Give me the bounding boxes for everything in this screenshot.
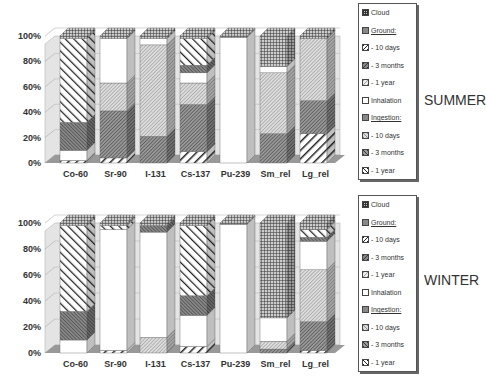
y-tick-label: 60% (23, 270, 41, 280)
y-tick-label: 100% (18, 31, 41, 41)
y-tick-label: 0% (28, 158, 41, 168)
legend-swatch-icon (362, 289, 369, 296)
legend-label: Cloud (371, 9, 389, 16)
legend-swatch-icon (362, 114, 369, 121)
bar-segment (180, 36, 207, 39)
category-label: Sr-90 (104, 169, 127, 179)
bar-segment (180, 152, 207, 163)
legend-label: - 3 months (371, 341, 404, 348)
bar-segment (180, 65, 207, 73)
bar-segment (300, 230, 327, 238)
bar-segment (180, 105, 207, 152)
y-tick-label: 80% (23, 56, 41, 66)
bar-segment (100, 230, 127, 351)
legend-label: - 10 days (371, 236, 400, 243)
bar-segment (140, 136, 167, 163)
summer-chart: 0%20%40%60%80%100%Co-60Sr-90I-131Cs-137P… (0, 0, 356, 193)
category-label: Co-60 (63, 169, 88, 179)
bar-segment (220, 224, 247, 353)
category-label: I-131 (145, 359, 166, 369)
category-label: Cs-137 (181, 359, 211, 369)
legend-swatch-icon (362, 236, 369, 243)
category-label: Lg_rel (302, 359, 329, 369)
legend-swatch-icon (362, 254, 369, 261)
bar-segment (180, 347, 207, 354)
legend-label: - 1 year (371, 79, 395, 86)
legend-label: Ingestion: (371, 306, 401, 313)
legend-label: - 10 days (371, 132, 400, 139)
legend-label: Ground: (371, 27, 396, 34)
legend-swatch-icon (362, 9, 369, 16)
legend-item: - 1 year (359, 74, 416, 92)
bar-segment (180, 73, 207, 83)
bar-segment (140, 223, 167, 226)
category-label: Pu-239 (221, 359, 251, 369)
bar-segment (100, 39, 127, 83)
bar-segment (180, 39, 207, 66)
bar-segment (60, 311, 87, 340)
bar-segment (60, 122, 87, 150)
bar-segment (300, 134, 327, 163)
bar-segment (140, 45, 167, 136)
y-tick-label: 100% (18, 218, 41, 228)
summer-legend: CloudGround:- 10 days- 3 months- 1 yearI… (358, 3, 417, 180)
bar-segment (260, 66, 287, 72)
bar-segment (260, 134, 287, 163)
legend-item: Ingestion: (359, 109, 416, 127)
bar-segment (220, 37, 247, 163)
bar-segment (300, 322, 327, 351)
bar-segment (140, 226, 167, 233)
y-tick-label: 80% (23, 244, 41, 254)
legend-label: - 3 months (371, 254, 404, 261)
bar-segment (260, 73, 287, 134)
legend-item: - 1 year (359, 354, 416, 372)
bar-segment (300, 350, 327, 353)
bar-segment (260, 349, 287, 353)
legend-swatch-icon (362, 167, 369, 174)
category-label: Sm_rel (260, 169, 290, 179)
legend-item: - 3 months (359, 144, 416, 162)
legend-label: - 3 months (371, 62, 404, 69)
winter-chart-panel: 0%20%40%60%80%100%Co-60Sr-90I-131Cs-137P… (0, 193, 486, 386)
legend-label: Inhalation (371, 289, 401, 296)
winter-label: WINTER (424, 272, 479, 288)
bar-segment (300, 270, 327, 322)
legend-item: - 1 year (359, 266, 416, 284)
category-label: I-131 (145, 169, 166, 179)
legend-swatch-icon (362, 27, 369, 34)
bar-segment (60, 160, 87, 163)
legend-swatch-icon (362, 97, 369, 104)
bar-segment (60, 340, 87, 353)
summer-chart-panel: 0%20%40%60%80%100%Co-60Sr-90I-131Cs-137P… (0, 0, 486, 193)
legend-swatch-icon (362, 341, 369, 348)
category-label: Pu-239 (221, 169, 251, 179)
category-label: Co-60 (63, 359, 88, 369)
bar-segment (300, 36, 327, 39)
legend-swatch-icon (362, 149, 369, 156)
bar-segment (260, 341, 287, 349)
bar-segment (180, 226, 207, 296)
legend-swatch-icon (362, 324, 369, 331)
bar-segment (100, 350, 127, 353)
bar-segment (300, 223, 327, 230)
legend-label: Cloud (371, 201, 389, 208)
legend-label: - 1 year (371, 359, 395, 366)
bar-segment (180, 315, 207, 346)
bar-segment (60, 226, 87, 312)
legend-label: Ingestion: (371, 114, 401, 121)
legend-label: - 1 year (371, 167, 395, 174)
bar-segment (300, 101, 327, 134)
bar-segment (300, 39, 327, 101)
legend-item: Ground: (359, 214, 416, 232)
bar-segment (180, 296, 207, 316)
bar-segment (260, 223, 287, 318)
legend-item: Ground: (359, 22, 416, 40)
legend-swatch-icon (362, 359, 369, 366)
legend-item: Inhalation (359, 284, 416, 302)
legend-item: - 10 days (359, 39, 416, 57)
bar-segment (60, 150, 87, 160)
bar-segment (60, 223, 87, 226)
legend-item: Inhalation (359, 92, 416, 110)
legend-swatch-icon (362, 271, 369, 278)
category-label: Lg_rel (302, 169, 329, 179)
